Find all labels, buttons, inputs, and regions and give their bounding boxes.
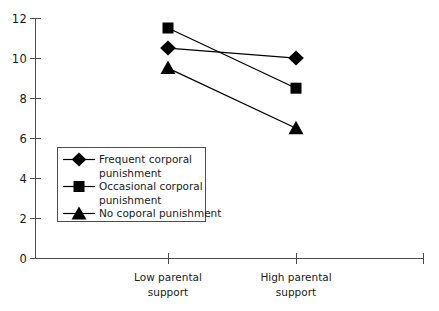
x-tick-label-high-line2: support bbox=[276, 286, 316, 298]
series-no-corporal-segment bbox=[168, 68, 296, 128]
series-frequent-segment bbox=[168, 48, 296, 58]
legend-label-frequent-line2: punishment bbox=[99, 167, 161, 179]
marker-diamond-frequent-low bbox=[160, 41, 176, 56]
y-axis: 12 10 8 6 4 2 0 bbox=[12, 12, 41, 266]
chart-canvas: 12 10 8 6 4 2 0 Low parental support Hig… bbox=[0, 0, 439, 311]
x-tick-label-low-line1: Low parental bbox=[134, 271, 202, 283]
marker-square-occasional-high bbox=[291, 83, 302, 94]
x-tick-label-low-line2: support bbox=[148, 286, 188, 298]
y-tick-label-2: 2 bbox=[19, 212, 27, 226]
series-no-corporal-punishment bbox=[161, 61, 304, 135]
y-tick-label-12: 12 bbox=[12, 12, 27, 26]
y-tick-label-10: 10 bbox=[12, 52, 27, 66]
legend-label-occasional-line2: punishment bbox=[99, 194, 161, 206]
series-frequent-corporal-punishment bbox=[160, 41, 304, 66]
x-axis: Low parental support High parental suppo… bbox=[35, 253, 424, 298]
y-tick-label-8: 8 bbox=[19, 92, 27, 106]
legend-label-no-corporal-line1: No coporal punishment bbox=[99, 207, 221, 219]
y-tick-label-6: 6 bbox=[19, 132, 27, 146]
y-tick-label-4: 4 bbox=[19, 172, 27, 186]
y-tick-label-0: 0 bbox=[19, 252, 27, 266]
marker-triangle-no-corporal-high bbox=[289, 121, 304, 135]
legend-label-frequent-line1: Frequent corporal bbox=[99, 153, 192, 165]
series-occasional-segment bbox=[168, 28, 296, 88]
marker-triangle-no-corporal-low bbox=[161, 61, 176, 75]
line-chart: 12 10 8 6 4 2 0 Low parental support Hig… bbox=[0, 0, 439, 311]
marker-square-occasional-low bbox=[163, 23, 174, 34]
square-icon bbox=[74, 181, 85, 192]
series-occasional-corporal-punishment bbox=[163, 23, 302, 94]
legend: Frequent corporal punishment Occasional … bbox=[58, 148, 222, 222]
legend-label-occasional-line1: Occasional corporal bbox=[99, 180, 203, 192]
marker-diamond-frequent-high bbox=[288, 51, 304, 66]
x-tick-label-high-line1: High parental bbox=[260, 271, 331, 283]
